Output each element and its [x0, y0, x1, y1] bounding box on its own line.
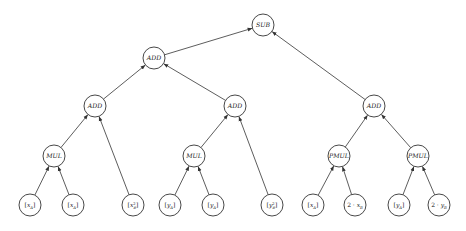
edge-arrow-l4-to-mul2 — [175, 166, 189, 195]
op-label: ADD — [227, 102, 242, 109]
op-label: ADD — [366, 102, 381, 109]
nodes-layer: SUBADDADDADDADDMULMULPMULPMUL[xA][xA][x2… — [19, 14, 450, 216]
op-node-sub: SUB — [252, 14, 274, 36]
tree-canvas: SUBADDADDADDADDMULMULPMULPMUL[xA][xA][x2… — [0, 0, 466, 231]
leaf-node-l8: 2 · xB — [344, 194, 366, 216]
leaf-node-l4: [yA] — [159, 194, 181, 216]
op-node-add0: ADD — [143, 47, 165, 69]
op-label: MUL — [45, 152, 62, 159]
edge-arrow-mul1-to-add1 — [61, 115, 88, 148]
op-node-add2: ADD — [224, 95, 246, 117]
edge-arrow-l7-to-pmul1 — [318, 166, 334, 195]
op-node-mul2: MUL — [183, 145, 205, 167]
op-node-pmul2: PMUL — [407, 145, 429, 167]
edge-arrow-pmul2-to-add3 — [382, 115, 411, 148]
edge-arrow-l5-to-mul2 — [198, 167, 209, 195]
op-label: PMUL — [407, 152, 428, 159]
op-node-add3: ADD — [363, 95, 385, 117]
edge-arrow-l8-to-pmul1 — [343, 167, 352, 195]
op-node-add1: ADD — [84, 95, 106, 117]
leaf-node-l7: [xA] — [302, 194, 324, 216]
edge-arrow-l2-to-mul1 — [58, 167, 69, 195]
edge-arrow-pmul1-to-add3 — [345, 115, 367, 147]
leaf-node-l3: [x2B] — [122, 194, 144, 216]
op-label: ADD — [146, 54, 161, 61]
edge-arrow-add0-to-sub — [165, 28, 253, 55]
op-node-mul1: MUL — [43, 145, 65, 167]
op-label: ADD — [87, 102, 102, 109]
edge-arrow-l3-to-add1 — [99, 117, 129, 195]
computation-tree-diagram: SUBADDADDADDADDMULMULPMULPMUL[xA][xA][x2… — [0, 0, 466, 231]
edge-arrow-add3-to-sub — [272, 32, 365, 100]
leaf-node-l2: [xA] — [62, 194, 84, 216]
edge-arrow-add2-to-add0 — [164, 64, 226, 101]
edge-arrow-l6-to-add2 — [239, 117, 268, 195]
leaf-node-l5: [yA] — [202, 194, 224, 216]
leaf-node-l6: [y2B] — [261, 194, 283, 216]
op-label: MUL — [185, 152, 202, 159]
edge-arrow-add1-to-add0 — [104, 65, 146, 99]
edge-arrow-l10-to-pmul2 — [422, 166, 434, 194]
op-label: SUB — [256, 21, 270, 28]
leaf-node-l10: 2 · yB — [428, 194, 450, 216]
leaf-node-l9: [yA] — [388, 194, 410, 216]
op-node-pmul1: PMUL — [328, 145, 350, 167]
edge-arrow-mul2-to-add2 — [201, 115, 228, 148]
op-label: PMUL — [328, 152, 349, 159]
edge-arrow-l1-to-mul1 — [35, 166, 49, 195]
edge-arrow-l9-to-pmul2 — [403, 167, 414, 195]
leaf-node-l1: [xA] — [19, 194, 41, 216]
